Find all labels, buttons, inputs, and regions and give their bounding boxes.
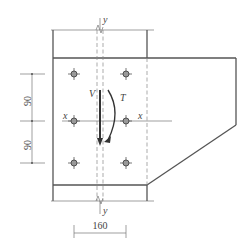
bolt-icon — [68, 157, 80, 169]
x-axis-label-right: x — [137, 110, 143, 121]
vertical-dim-label-lower: 90 — [22, 140, 33, 150]
y-axis-label-bottom: y — [102, 205, 108, 216]
bolt-icon — [68, 68, 80, 80]
x-axis-label-left: x — [62, 110, 68, 121]
shear-arrowhead — [97, 138, 103, 146]
bolt-icon — [120, 157, 132, 169]
torsion-arc — [108, 90, 115, 140]
plate-diagonal-edge — [147, 125, 236, 185]
bolt-icon — [120, 115, 132, 127]
vertical-dim-tick-top — [31, 73, 33, 75]
torsion-label: T — [120, 92, 127, 103]
shear-label: V — [89, 88, 97, 99]
bolt-icon — [68, 115, 80, 127]
vertical-dim-tick-mid — [31, 120, 33, 122]
torsion-arrowhead — [104, 136, 111, 143]
vertical-dim-label-upper: 90 — [22, 96, 33, 106]
bolt-icon — [120, 68, 132, 80]
vertical-dim-tick-bottom — [31, 162, 33, 164]
connection-diagram: y y x x V T 90 90 160 — [0, 0, 246, 250]
horizontal-dim-label: 160 — [93, 220, 108, 231]
y-axis-label-top: y — [102, 14, 108, 25]
